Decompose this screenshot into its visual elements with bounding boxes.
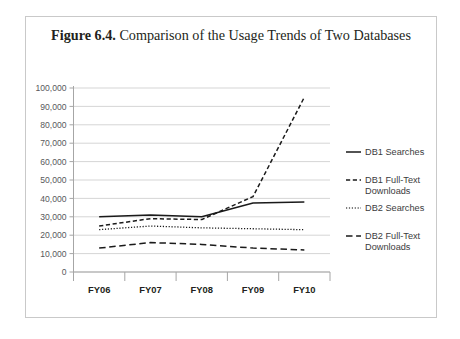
chart-plot-area: 100,00090,00080,00070,00060,00050,00040,… <box>0 0 460 339</box>
x-axis-tick-label: FY09 <box>242 284 264 295</box>
y-axis-tick-label: 50,000 <box>40 175 67 185</box>
y-axis-tick-label: 70,000 <box>40 138 67 148</box>
x-axis-tick-labels: FY06FY07FY08FY09FY10 <box>88 284 316 295</box>
y-axis-tick-label: 100,000 <box>35 83 66 93</box>
y-axis-tick-label: 0 <box>62 267 67 277</box>
legend-label-2: DB1 Full-Text <box>365 175 421 185</box>
legend-label-4-line2: Downloads <box>365 242 411 252</box>
chart-legend: DB1 SearchesDB1 Full-TextDownloadsDB2 Se… <box>346 147 425 252</box>
legend-label-3: DB2 Searches <box>365 203 425 213</box>
series-line-1 <box>99 202 304 217</box>
y-axis-tick-label: 20,000 <box>40 230 67 240</box>
y-axis-tick-label: 10,000 <box>40 249 67 259</box>
y-axis-tick-label: 60,000 <box>40 157 67 167</box>
series-line-4 <box>99 243 304 250</box>
x-axis-tick-label: FY07 <box>139 284 161 295</box>
series-line-3 <box>99 226 304 230</box>
legend-label-2-line2: Downloads <box>365 186 411 196</box>
x-axis-tick-label: FY08 <box>191 284 213 295</box>
chart-series-group <box>99 97 304 250</box>
y-axis-tick-label: 40,000 <box>40 194 67 204</box>
y-axis-tick-label: 80,000 <box>40 120 67 130</box>
line-chart: 100,00090,00080,00070,00060,00050,00040,… <box>0 0 460 339</box>
y-axis-tick-label: 30,000 <box>40 212 67 222</box>
figure-root: Figure 6.4. Comparison of the Usage Tren… <box>0 0 460 339</box>
y-axis-tick-label: 90,000 <box>40 102 67 112</box>
x-axis-tick-label: FY06 <box>88 284 110 295</box>
chart-axes <box>74 86 331 281</box>
x-axis-tick-label: FY10 <box>293 284 315 295</box>
legend-label-4: DB2 Full-Text <box>365 231 421 241</box>
y-gridlines: 100,00090,00080,00070,00060,00050,00040,… <box>35 83 330 277</box>
legend-label-1: DB1 Searches <box>365 147 425 157</box>
